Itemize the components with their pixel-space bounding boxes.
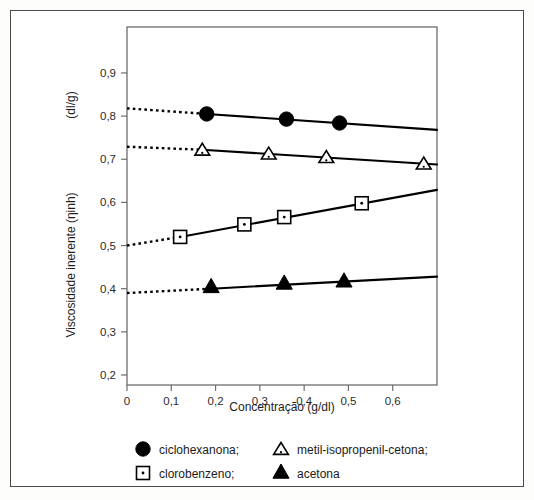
series-extrapolation-line bbox=[127, 108, 207, 114]
series-fit-line bbox=[211, 277, 437, 289]
legend-label: clorobenzeno; bbox=[159, 467, 234, 481]
marker-filled-triangle bbox=[273, 464, 289, 478]
series-3 bbox=[127, 273, 437, 293]
series-0 bbox=[127, 107, 437, 130]
data-point-legend-0 bbox=[136, 442, 150, 456]
marker-center-dot bbox=[201, 152, 203, 154]
data-point-legend-2 bbox=[137, 467, 150, 480]
data-point-legend-1 bbox=[274, 443, 289, 455]
series-extrapolation-line bbox=[127, 147, 202, 150]
y-tick-label: 0,6 bbox=[100, 196, 116, 208]
marker-center-dot bbox=[280, 451, 282, 453]
series-fit-line bbox=[207, 114, 437, 130]
data-point-2-3 bbox=[355, 197, 368, 210]
x-tick-label: 0,5 bbox=[340, 395, 356, 407]
series-2 bbox=[127, 190, 437, 246]
marker-filled-triangle bbox=[276, 275, 292, 289]
x-tick-label: 0,1 bbox=[163, 395, 179, 407]
y-tick-label: 0,7 bbox=[100, 153, 116, 165]
data-point-3-1 bbox=[276, 275, 292, 289]
marker-filled-triangle bbox=[203, 278, 219, 292]
marker-filled-triangle bbox=[336, 273, 352, 287]
series-extrapolation-line bbox=[127, 237, 180, 246]
legend-item-3: acetona bbox=[273, 464, 340, 481]
y-tick-label: 0,8 bbox=[100, 110, 116, 122]
chart-legend: ciclohexanona;metil-isopropenil-cetona;c… bbox=[136, 442, 428, 481]
x-axis-title: Concentração (g/dl) bbox=[229, 400, 334, 414]
legend-item-0: ciclohexanona; bbox=[136, 442, 239, 457]
x-tick-label: 0,2 bbox=[208, 395, 224, 407]
x-tick-label: 0,6 bbox=[385, 395, 401, 407]
marker-filled-circle bbox=[200, 107, 214, 121]
y-tick-label: 0,3 bbox=[100, 326, 116, 338]
data-point-3-0 bbox=[203, 278, 219, 292]
y-tick-label: 0,9 bbox=[100, 67, 116, 79]
x-axis-ticks bbox=[127, 385, 393, 391]
y-tick-label: 0,2 bbox=[100, 369, 116, 381]
series-extrapolation-line bbox=[127, 289, 211, 293]
data-point-0-2 bbox=[332, 116, 346, 130]
legend-label: metil-isopropenil-cetona; bbox=[297, 443, 428, 457]
data-point-0-1 bbox=[279, 112, 293, 126]
data-series-layer bbox=[127, 107, 437, 293]
marker-center-dot bbox=[243, 223, 246, 226]
y-axis-ticks bbox=[121, 73, 127, 375]
marker-center-dot bbox=[423, 166, 425, 168]
marker-center-dot bbox=[142, 472, 145, 475]
series-fit-line bbox=[180, 190, 437, 237]
y-tick-label: 0,5 bbox=[100, 240, 116, 252]
marker-center-dot bbox=[179, 236, 182, 239]
y-axis-unit-label: (dl/g) bbox=[64, 91, 78, 118]
viscosity-scatter-chart: 0,20,30,40,50,60,70,80,9 00,10,20,30,40,… bbox=[0, 0, 534, 500]
data-point-2-1 bbox=[238, 218, 251, 231]
legend-label: acetona bbox=[297, 467, 340, 481]
data-point-2-2 bbox=[278, 211, 291, 224]
figure-container: 0,20,30,40,50,60,70,80,9 00,10,20,30,40,… bbox=[0, 0, 534, 500]
y-tick-label: 0,4 bbox=[100, 283, 117, 295]
data-point-legend-3 bbox=[273, 464, 289, 478]
series-1 bbox=[127, 143, 437, 169]
marker-center-dot bbox=[360, 202, 363, 205]
x-tick-label: 0 bbox=[124, 395, 130, 407]
marker-filled-circle bbox=[136, 442, 150, 456]
plot-frame bbox=[127, 27, 437, 385]
y-axis-tick-labels: 0,20,30,40,50,60,70,80,9 bbox=[100, 67, 117, 381]
data-point-0-0 bbox=[200, 107, 214, 121]
data-point-3-2 bbox=[336, 273, 352, 287]
marker-filled-circle bbox=[332, 116, 346, 130]
legend-item-1: metil-isopropenil-cetona; bbox=[274, 443, 428, 457]
legend-item-2: clorobenzeno; bbox=[137, 467, 235, 481]
data-point-2-0 bbox=[174, 230, 187, 243]
marker-center-dot bbox=[283, 216, 286, 219]
legend-label: ciclohexanona; bbox=[159, 443, 239, 457]
marker-center-dot bbox=[325, 159, 327, 161]
y-axis-title: Viscosidade inerente (ηinh) bbox=[64, 192, 78, 337]
marker-filled-circle bbox=[279, 112, 293, 126]
marker-center-dot bbox=[268, 156, 270, 158]
